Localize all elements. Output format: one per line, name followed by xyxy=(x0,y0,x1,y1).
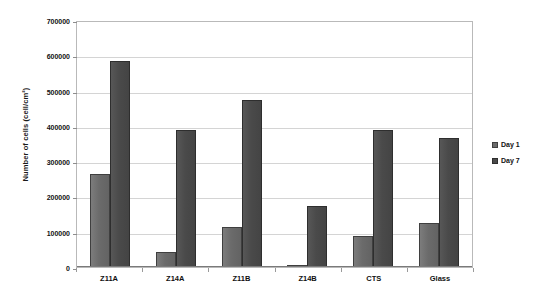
x-axis-label: Z14B xyxy=(275,274,341,290)
x-axis-label: Glass xyxy=(407,274,473,290)
x-axis-baseline xyxy=(77,266,472,267)
bar[interactable] xyxy=(373,130,393,267)
bar[interactable] xyxy=(176,130,196,267)
bar[interactable] xyxy=(242,100,262,267)
y-axis-tick-label: 500000 xyxy=(47,88,70,95)
bar[interactable] xyxy=(222,227,242,267)
bar[interactable] xyxy=(353,236,373,267)
legend-swatch-icon xyxy=(492,142,498,148)
y-axis-tick-label: 0 xyxy=(66,265,70,272)
x-axis-label: Z11A xyxy=(76,274,142,290)
bar[interactable] xyxy=(156,252,176,267)
bar-group xyxy=(209,22,275,267)
x-axis-tick xyxy=(142,268,143,272)
bar[interactable] xyxy=(90,174,110,268)
x-axis-tick xyxy=(473,268,474,272)
x-axis-label: CTS xyxy=(341,274,407,290)
bar-group xyxy=(340,22,406,267)
x-axis-tick xyxy=(341,268,342,272)
y-axis-tick-label: 100000 xyxy=(47,229,70,236)
x-axis-tick xyxy=(76,268,77,272)
x-axis-tick xyxy=(407,268,408,272)
legend-swatch-icon xyxy=(492,158,498,164)
x-axis-tick xyxy=(208,268,209,272)
y-axis-tick-label: 600000 xyxy=(47,53,70,60)
x-axis-label: Z11B xyxy=(208,274,274,290)
bar-chart: Number of cells (cell/cm²) 0100000200000… xyxy=(0,0,538,305)
legend-item[interactable]: Day 1 xyxy=(492,140,536,149)
bar-group xyxy=(406,22,472,267)
x-axis-labels: Z11AZ14AZ11BZ14BCTSGlass xyxy=(76,274,473,290)
plot-area xyxy=(76,21,473,268)
y-axis-tick-label: 200000 xyxy=(47,194,70,201)
y-axis-tick-label: 300000 xyxy=(47,159,70,166)
legend-label: Day 1 xyxy=(501,141,520,148)
bar[interactable] xyxy=(307,206,327,267)
bar[interactable] xyxy=(419,223,439,267)
legend: Day 1Day 7 xyxy=(492,140,536,172)
bars-layer xyxy=(77,22,472,267)
x-axis-ticks xyxy=(76,268,473,272)
y-axis-tick-label: 400000 xyxy=(47,123,70,130)
y-axis-tick-label: 700000 xyxy=(47,18,70,25)
y-axis-tick-labels: 0100000200000300000400000500000600000700… xyxy=(30,21,74,268)
legend-item[interactable]: Day 7 xyxy=(492,156,536,165)
bar-group xyxy=(77,22,143,267)
bar[interactable] xyxy=(110,61,130,267)
bar-group xyxy=(274,22,340,267)
bar-group xyxy=(143,22,209,267)
bar[interactable] xyxy=(439,138,459,267)
x-axis-tick xyxy=(275,268,276,272)
x-axis-label: Z14A xyxy=(142,274,208,290)
legend-label: Day 7 xyxy=(501,157,520,164)
